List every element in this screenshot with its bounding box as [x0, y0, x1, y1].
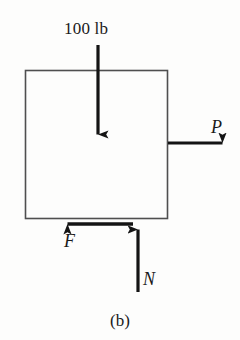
figure-caption: (b)	[0, 312, 240, 329]
free-body-diagram-figure: 100 lb P F N (b)	[0, 0, 240, 340]
applied-force-label: P	[211, 118, 222, 136]
diagram-canvas	[0, 0, 240, 340]
load-force-label: 100 lb	[64, 20, 108, 37]
normal-force-label: N	[143, 270, 155, 288]
friction-force-label: F	[64, 232, 75, 250]
